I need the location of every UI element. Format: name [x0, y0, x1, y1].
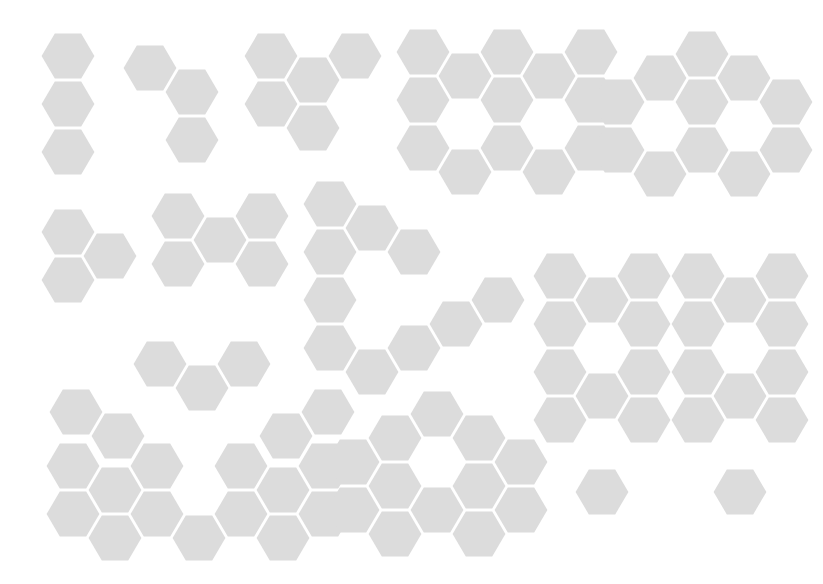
- hex-cell: [439, 150, 492, 195]
- hex-cell: [257, 516, 310, 561]
- stair-pentahex: [0, 0, 823, 584]
- hex-cell: [236, 194, 289, 239]
- hex-cell: [369, 416, 422, 461]
- hex-cell: [166, 118, 219, 163]
- hex-cell: [257, 468, 310, 513]
- double-ring-wide-cells: [397, 30, 618, 195]
- triangle-ring: [0, 0, 823, 584]
- hex-cell: [302, 390, 355, 435]
- hex-cell: [346, 206, 399, 251]
- hex-cell: [714, 374, 767, 419]
- hex-cell: [453, 512, 506, 557]
- hex-cell: [388, 230, 441, 275]
- hex-cell: [411, 488, 464, 533]
- hex-cell: [304, 182, 357, 227]
- hex-cell: [245, 82, 298, 127]
- hex-cell: [672, 254, 725, 299]
- hex-cell: [245, 34, 298, 79]
- arch-heptahex-cells: [50, 342, 355, 459]
- stair-pentahex-cells: [245, 34, 382, 151]
- hex-cell: [430, 302, 483, 347]
- hex-cell: [388, 326, 441, 371]
- arch-heptahex: [0, 0, 823, 584]
- hex-cell: [618, 350, 671, 395]
- hex-cell: [495, 488, 548, 533]
- hex-cell: [173, 516, 226, 561]
- hex-cell: [756, 398, 809, 443]
- hex-cell: [131, 492, 184, 537]
- hex-cell: [592, 128, 645, 173]
- hex-cell: [42, 210, 95, 255]
- hex-cell: [346, 350, 399, 395]
- hex-cell: [215, 444, 268, 489]
- triangle-triomino: [0, 0, 823, 584]
- hex-cell: [523, 54, 576, 99]
- hex-cell: [260, 414, 313, 459]
- triangle-ring-cells: [304, 182, 525, 395]
- hex-cell: [576, 470, 629, 515]
- hex-cell: [495, 440, 548, 485]
- hex-cell: [672, 398, 725, 443]
- hex-cell: [304, 278, 357, 323]
- triangle-triomino-cells: [124, 46, 219, 163]
- hex-cell: [481, 30, 534, 75]
- double-ring-wide: [0, 0, 823, 584]
- hex-cell: [534, 350, 587, 395]
- hex-cell: [453, 464, 506, 509]
- triangle-triomino-left: [0, 0, 823, 584]
- hex-cell: [565, 30, 618, 75]
- hex-cell: [718, 56, 771, 101]
- hex-cell: [672, 302, 725, 347]
- hex-cell: [534, 398, 587, 443]
- hex-cell: [327, 440, 380, 485]
- hex-cell: [176, 366, 229, 411]
- hex-ring-large: [0, 0, 823, 584]
- hex-cell: [194, 218, 247, 263]
- vertical-triomino-cells: [42, 34, 95, 175]
- hex-cell: [676, 32, 729, 77]
- hex-cell: [634, 152, 687, 197]
- hex-cell: [304, 326, 357, 371]
- hex-cell: [92, 414, 145, 459]
- hex-cell: [327, 488, 380, 533]
- triangle-triomino-left-cells: [42, 210, 137, 303]
- hex-cell: [618, 254, 671, 299]
- hex-cell: [131, 444, 184, 489]
- hex-cell: [50, 390, 103, 435]
- hex-cell: [481, 126, 534, 171]
- hex-cell: [299, 492, 352, 537]
- tall-ring-left: [0, 0, 823, 584]
- hex-cell: [166, 70, 219, 115]
- hex-cell: [756, 254, 809, 299]
- double-loop-bowtie-cells: [47, 444, 352, 561]
- hex-cell: [299, 444, 352, 489]
- hex-cell: [565, 126, 618, 171]
- hex-cell: [565, 78, 618, 123]
- triangle-cluster-bottom-cells: [327, 392, 548, 557]
- hex-cell: [369, 512, 422, 557]
- hex-cell: [134, 342, 187, 387]
- hex-cell: [718, 152, 771, 197]
- hex-cell: [84, 234, 137, 279]
- hex-cell: [472, 278, 525, 323]
- hex-cell: [397, 126, 450, 171]
- hex-cell: [89, 468, 142, 513]
- hex-cell: [89, 516, 142, 561]
- hex-cell: [618, 398, 671, 443]
- hex-cell: [397, 78, 450, 123]
- hex-cell: [124, 46, 177, 91]
- hex-cell: [439, 54, 492, 99]
- zigzag-hexahex-cells: [152, 194, 289, 287]
- hex-cell: [287, 106, 340, 151]
- hex-cell: [42, 130, 95, 175]
- hex-cell: [672, 350, 725, 395]
- hex-cell: [47, 492, 100, 537]
- hex-shapes-canvas: [0, 0, 823, 584]
- tall-ring-left-cells: [534, 254, 671, 515]
- hex-cell: [42, 82, 95, 127]
- hex-cell: [592, 80, 645, 125]
- hex-cell: [236, 242, 289, 287]
- vertical-triomino: [0, 0, 823, 584]
- zigzag-hexahex: [0, 0, 823, 584]
- triangle-cluster-bottom: [0, 0, 823, 584]
